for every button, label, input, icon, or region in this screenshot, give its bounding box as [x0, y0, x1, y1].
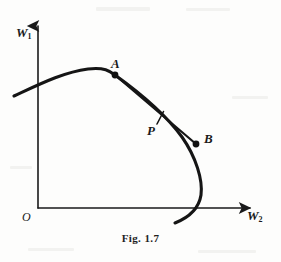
figure-container: W1 W2 O APB Fig. 1.7 — [0, 0, 281, 262]
point-label-a: A — [111, 57, 120, 70]
point-marker-b — [193, 141, 200, 148]
point-marker-a — [112, 72, 119, 79]
y-axis-label: W1 — [16, 26, 32, 39]
point-label-p: P — [147, 124, 155, 137]
x-axis-label-text: W — [247, 208, 259, 223]
y-axis-label-text: W — [16, 25, 28, 40]
chord-A-B — [115, 75, 196, 144]
origin-label: O — [22, 211, 31, 223]
x-axis-label-subscript: 2 — [259, 215, 263, 224]
y-axis-label-subscript: 1 — [28, 32, 32, 41]
figure-caption: Fig. 1.7 — [0, 232, 281, 244]
axes-group — [38, 26, 250, 208]
frontier-curve — [14, 68, 201, 223]
point-label-b: B — [204, 132, 213, 145]
figure-drawing — [0, 0, 281, 262]
x-axis-label: W2 — [247, 209, 263, 222]
